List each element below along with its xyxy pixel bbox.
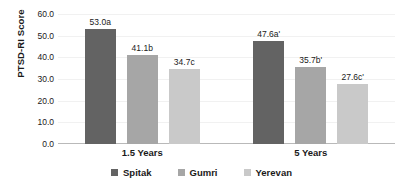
bar-value-label: 35.7b' (285, 55, 336, 65)
y-axis-tick-label: 0.0 (42, 139, 54, 149)
bar-gumri-1-5-years (127, 55, 158, 144)
bar-gumri-5-years (295, 67, 326, 144)
legend-swatch-icon (244, 169, 251, 176)
y-axis-tick-label: 60.0 (37, 9, 54, 19)
bar-spitak-1-5-years (85, 29, 116, 144)
bar-value-label: 34.7c (159, 57, 210, 67)
chart-legend: SpitakGumriYerevan (0, 167, 403, 178)
ptsd-ri-score-bar-chart: PTSD-RI Score 0.010.020.030.040.050.060.… (0, 0, 403, 190)
legend-item-spitak[interactable]: Spitak (111, 167, 152, 178)
y-axis-tick-label: 30.0 (37, 74, 54, 84)
bar-value-label: 41.1b (117, 43, 168, 53)
group-label-1-5-years: 1.5 Years (58, 147, 227, 158)
y-axis-tick-label: 40.0 (37, 52, 54, 62)
grid-line (58, 14, 395, 15)
y-axis-tick-label: 20.0 (37, 96, 54, 106)
bar-spitak-5-years (253, 41, 284, 144)
group-label-5-years: 5 Years (227, 147, 396, 158)
y-axis-tick-label: 10.0 (37, 117, 54, 127)
legend-item-yerevan[interactable]: Yerevan (244, 167, 292, 178)
legend-swatch-icon (111, 169, 118, 176)
y-axis-tick-label: 50.0 (37, 31, 54, 41)
legend-item-gumri[interactable]: Gumri (178, 167, 218, 178)
y-axis-tick-labels: 0.010.020.030.040.050.060.0 (14, 14, 54, 144)
bar-yerevan-5-years (337, 84, 368, 144)
legend-item-label: Gumri (190, 167, 218, 178)
plot-area: 53.0a41.1b34.7c47.6a'35.7b'27.6c' (58, 14, 395, 144)
x-axis-group-labels: 1.5 Years5 Years (58, 147, 395, 163)
legend-item-label: Yerevan (256, 167, 292, 178)
legend-item-label: Spitak (123, 167, 152, 178)
bar-value-label: 47.6a' (243, 29, 294, 39)
bar-yerevan-1-5-years (169, 69, 200, 144)
bar-value-label: 53.0a (75, 17, 126, 27)
legend-swatch-icon (178, 169, 185, 176)
bar-value-label: 27.6c' (327, 72, 378, 82)
